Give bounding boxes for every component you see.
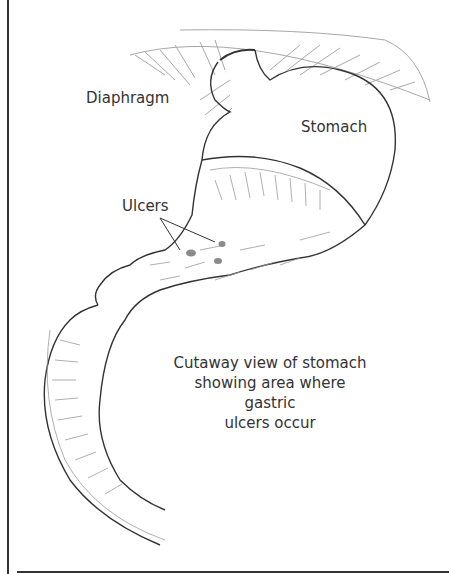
ulcer-spots: [186, 241, 226, 264]
label-diaphragm: Diaphragm: [86, 89, 169, 107]
label-ulcers: Ulcers: [122, 197, 169, 215]
caption-line-2: showing area where gastric: [170, 373, 370, 413]
caption-line-1: Cutaway view of stomach: [170, 353, 370, 373]
label-stomach: Stomach: [301, 118, 367, 136]
figure-caption: Cutaway view of stomach showing area whe…: [170, 353, 370, 433]
diaphragm-drawing: [130, 30, 430, 130]
caption-line-3: ulcers occur: [170, 413, 370, 433]
stomach-illustration: [0, 0, 463, 574]
